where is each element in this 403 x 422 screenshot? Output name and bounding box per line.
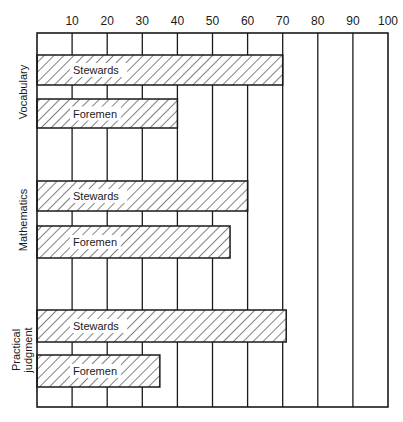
x-tick-label: 100 (378, 14, 398, 28)
bar-chart: 102030405060708090100 StewardsForemenSte… (0, 0, 403, 422)
bar-label: Foremen (73, 236, 117, 248)
bar-label: Foremen (73, 108, 117, 120)
category-label-vocabulary: Vocabulary (17, 64, 29, 119)
category-labels: VocabularyMathematicsPracticaljudgment (10, 64, 34, 373)
category-label-mathematics: Mathematics (17, 188, 29, 251)
category-label-judgment: judgment (22, 327, 34, 373)
bar-stewards (37, 181, 248, 211)
bar-label: Foremen (73, 365, 117, 377)
x-tick-label: 60 (241, 14, 255, 28)
x-tick-label: 50 (206, 14, 220, 28)
x-axis-ticks: 102030405060708090100 (65, 14, 398, 28)
bar-label: Stewards (73, 64, 119, 76)
x-tick-label: 70 (276, 14, 290, 28)
x-tick-label: 20 (101, 14, 115, 28)
bar-label: Stewards (73, 320, 119, 332)
category-label-practical: Practical (10, 329, 22, 371)
x-tick-label: 90 (346, 14, 360, 28)
bars: StewardsForemenStewardsForemenStewardsFo… (37, 55, 286, 387)
x-tick-label: 10 (65, 14, 79, 28)
bar-label: Stewards (73, 190, 119, 202)
x-tick-label: 40 (171, 14, 185, 28)
bar-foremen (37, 226, 230, 258)
x-tick-label: 80 (311, 14, 325, 28)
gridlines (72, 33, 353, 407)
x-tick-label: 30 (136, 14, 150, 28)
